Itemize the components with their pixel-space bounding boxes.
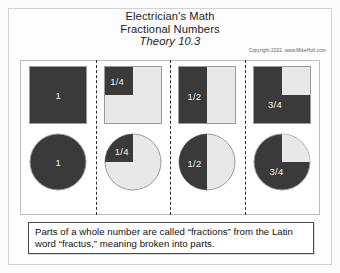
square-diagram-three-quarters: 3/4 (253, 66, 311, 124)
slide-canvas: Electrician's Math Fractional Numbers Th… (0, 0, 340, 273)
circle-svg-whole (29, 133, 87, 191)
fraction-column-one-quarter: 1/4 1/4 (96, 61, 171, 214)
square-diagram-whole: 1 (29, 66, 87, 124)
fraction-column-one-half: 1/2 1/2 (170, 61, 245, 214)
circle-svg-one-quarter (104, 133, 162, 191)
page-title-line-2: Fractional Numbers (0, 23, 340, 36)
copyright-notice: Copyright 2022, www.MikeHolt.com (249, 48, 326, 53)
square-fill-region (179, 67, 207, 123)
fraction-column-whole: 1 1 (21, 61, 96, 214)
square-fill-region (30, 67, 86, 123)
page-title-line-1: Electrician's Math (0, 10, 340, 23)
square-diagram-one-quarter: 1/4 (104, 66, 162, 124)
title-block: Electrician's Math Fractional Numbers Th… (0, 10, 340, 48)
caption-text: Parts of a whole number are called “frac… (35, 226, 307, 249)
circle-svg-three-quarters (253, 133, 311, 191)
circle-diagram-one-half: 1/2 (178, 133, 236, 191)
caption-box: Parts of a whole number are called “frac… (28, 222, 314, 254)
square-diagram-one-half: 1/2 (178, 66, 236, 124)
page-subtitle: Theory 10.3 (0, 35, 340, 48)
fraction-figure-panel: 1 1 1/4 1/4 (20, 60, 320, 215)
circle-svg-one-half (178, 133, 236, 191)
fraction-column-three-quarters: 3/4 3/4 (245, 61, 320, 214)
square-fill-region (105, 67, 133, 95)
circle-diagram-one-quarter: 1/4 (104, 133, 162, 191)
circle-diagram-whole: 1 (29, 133, 87, 191)
square-empty-region (282, 67, 310, 95)
circle-diagram-three-quarters: 3/4 (253, 133, 311, 191)
